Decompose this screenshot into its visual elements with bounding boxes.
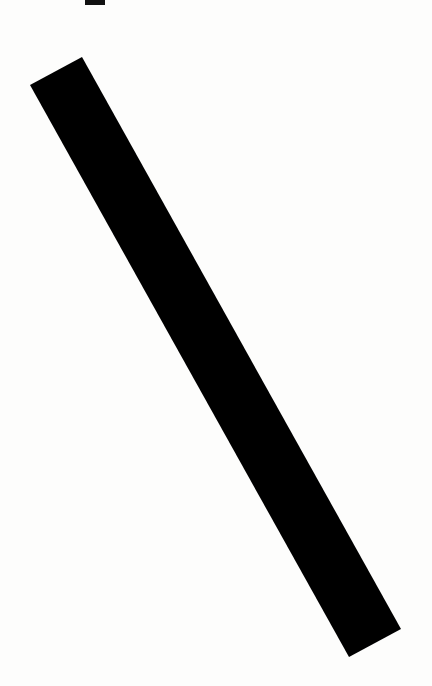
stripe-drawing <box>0 0 432 686</box>
top-mark <box>85 0 105 5</box>
scanned-page: Scanned white sheet with a thick black d… <box>0 0 432 686</box>
